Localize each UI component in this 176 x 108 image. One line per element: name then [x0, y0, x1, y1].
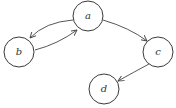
edge-a-to-c — [103, 20, 147, 41]
node-c-label: c — [155, 46, 161, 57]
node-a-label: a — [85, 10, 91, 21]
node-b-label: b — [16, 46, 22, 57]
node-d-label: d — [101, 83, 107, 94]
graph-canvas: a b c d — [0, 0, 176, 108]
edge-b-to-a — [35, 30, 77, 50]
edge-a-to-b — [30, 20, 73, 38]
node-b: b — [4, 37, 34, 67]
edge-c-to-d — [118, 64, 149, 81]
node-a: a — [73, 1, 103, 31]
node-d: d — [89, 74, 119, 104]
node-c: c — [143, 37, 173, 67]
